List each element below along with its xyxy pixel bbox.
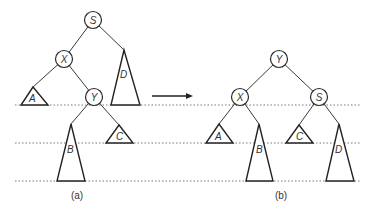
node-label: X [236, 92, 244, 103]
subtree-label: C [296, 131, 304, 142]
node-label: S [316, 92, 323, 103]
subtree-label: A [28, 93, 36, 104]
arrow-icon [152, 93, 193, 99]
tree-a: A D B C S X Y (a) [21, 12, 140, 202]
node-label: X [60, 54, 68, 65]
subtree-label: D [335, 144, 342, 155]
subtree-label: D [120, 69, 127, 80]
subtree-label: A [214, 131, 222, 142]
caption-b: (b) [275, 190, 287, 201]
subtree-label: B [256, 144, 263, 155]
tree-b: A B C D Y X S (b) [206, 51, 354, 202]
rotation-diagram: A D B C S X Y (a) A B C D Y X [0, 0, 369, 213]
subtree-label: C [116, 131, 124, 142]
caption-a: (a) [71, 190, 83, 201]
subtree-label: B [67, 144, 74, 155]
node-label: S [90, 15, 97, 26]
